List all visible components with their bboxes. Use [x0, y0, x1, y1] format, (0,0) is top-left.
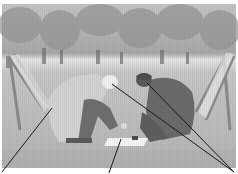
annotated-photo-figure: [0, 0, 238, 174]
photo-canvas: [0, 0, 238, 174]
